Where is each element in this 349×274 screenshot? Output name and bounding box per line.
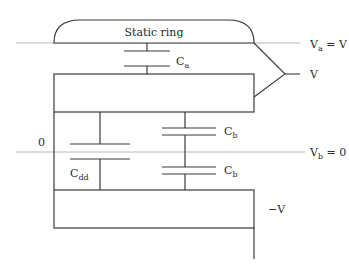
neg-v-label: −V	[268, 203, 286, 216]
upper-electrode	[54, 74, 254, 112]
v-connection	[254, 43, 300, 97]
capacitor-cb-chain	[162, 112, 216, 190]
cb-lower-label: Cb	[224, 164, 238, 179]
static-ring-label: Static ring	[124, 26, 183, 39]
va-label: Va = V	[309, 38, 348, 53]
lower-electrode	[54, 190, 254, 228]
ca-label: Ca	[176, 55, 189, 70]
cdd-label: Cdd	[70, 167, 89, 182]
capacitor-ca	[124, 43, 170, 74]
capacitance-diagram: Static ring Ca Cdd Cb Cb Va = V V	[0, 0, 349, 274]
v-label: V	[309, 68, 319, 81]
cb-upper-label: Cb	[224, 125, 238, 140]
vb-label: Vb = 0	[309, 146, 346, 161]
zero-label: 0	[38, 136, 45, 149]
